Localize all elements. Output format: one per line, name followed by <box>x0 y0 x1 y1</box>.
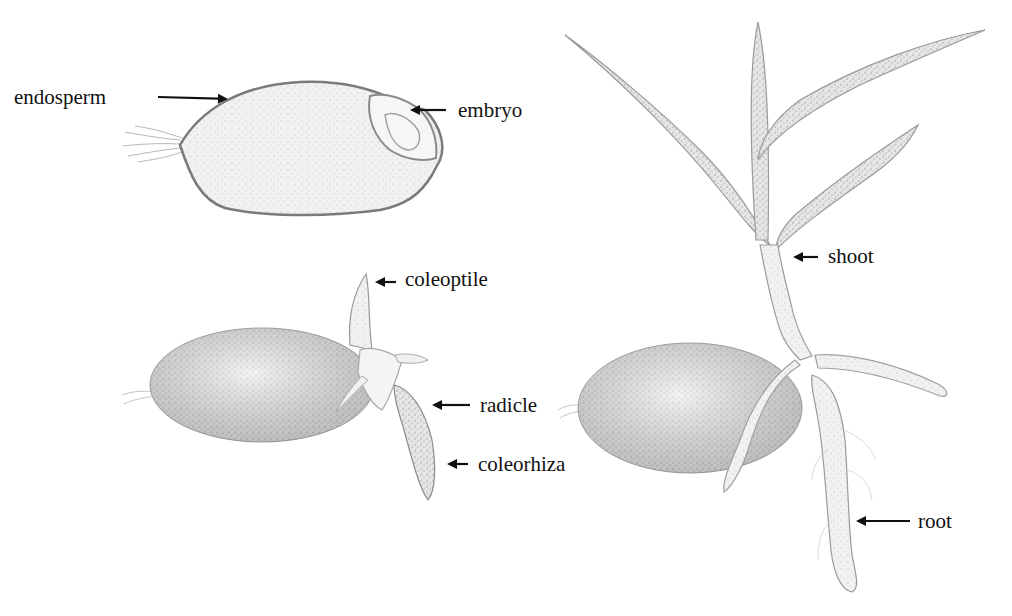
label-radicle: radicle <box>480 395 537 416</box>
label-root: root <box>918 511 952 532</box>
arrowhead-icon <box>447 459 457 469</box>
label-endosperm: endosperm <box>14 87 106 108</box>
arrowhead-icon <box>432 400 442 410</box>
label-coleoptile: coleoptile <box>405 269 488 290</box>
arrowhead-icon <box>793 252 803 262</box>
figure-canvas: endosperm embryo coleoptile radicle cole… <box>0 0 1012 616</box>
label-coleorhiza: coleorhiza <box>478 454 565 475</box>
seedling-drawing <box>558 22 985 592</box>
label-embryo: embryo <box>458 100 522 121</box>
label-shoot: shoot <box>828 246 874 267</box>
grain-section-drawing <box>123 82 442 215</box>
early-germination-drawing <box>122 274 435 500</box>
arrowhead-icon <box>856 516 866 526</box>
illustration <box>0 0 1012 616</box>
arrow-endosperm <box>158 97 218 99</box>
arrowhead-icon <box>375 277 385 287</box>
